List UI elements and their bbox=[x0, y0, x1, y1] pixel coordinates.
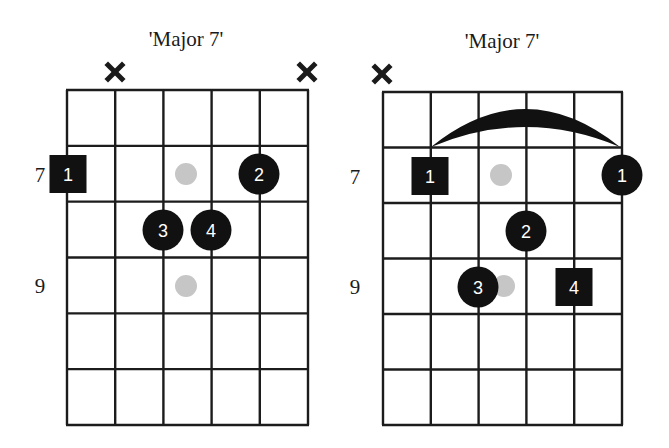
chord-title: 'Major 7' bbox=[149, 27, 224, 51]
finger-marker: 2 bbox=[506, 211, 547, 252]
finger-marker: 3 bbox=[143, 210, 184, 251]
muted-x-icon bbox=[108, 65, 122, 79]
chord-diagram-right: 'Major 7' 7 9 1 1 2 3 4 bbox=[350, 29, 643, 425]
finger-number: 4 bbox=[569, 278, 579, 298]
muted-strings bbox=[375, 67, 389, 81]
finger-marker: 1 bbox=[50, 155, 87, 193]
muted-strings bbox=[108, 65, 314, 79]
finger-marker: 2 bbox=[239, 154, 280, 195]
finger-number: 1 bbox=[617, 166, 627, 186]
root-dot-icon bbox=[175, 275, 197, 297]
finger-number: 1 bbox=[425, 167, 435, 187]
chord-diagrams-canvas: 'Major 7' 7 9 1 2 3 4 'Major 7' 7 9 1 1 … bbox=[0, 0, 669, 448]
muted-x-icon bbox=[300, 65, 314, 79]
fretboard-grid bbox=[382, 92, 623, 425]
root-dot-icon bbox=[490, 164, 512, 186]
finger-number: 3 bbox=[473, 278, 483, 298]
finger-marker: 1 bbox=[412, 157, 449, 195]
finger-marker: 4 bbox=[556, 268, 593, 306]
finger-number: 2 bbox=[254, 165, 264, 185]
chord-title: 'Major 7' bbox=[465, 29, 540, 53]
finger-number: 2 bbox=[521, 222, 531, 242]
finger-number: 3 bbox=[158, 221, 168, 241]
chord-diagram-left: 'Major 7' 7 9 1 2 3 4 bbox=[35, 27, 314, 425]
root-dot-icon bbox=[175, 163, 197, 185]
fretboard-grid bbox=[66, 90, 309, 425]
finger-marker: 4 bbox=[191, 210, 232, 251]
finger-number: 4 bbox=[206, 221, 216, 241]
finger-number: 1 bbox=[63, 165, 73, 185]
finger-marker: 3 bbox=[458, 267, 499, 308]
fret-number-label: 9 bbox=[350, 275, 361, 299]
muted-x-icon bbox=[375, 67, 389, 81]
fret-number-label: 7 bbox=[35, 163, 46, 187]
fret-number-label: 7 bbox=[350, 165, 361, 189]
finger-marker: 1 bbox=[602, 155, 643, 196]
fret-number-label: 9 bbox=[35, 274, 46, 298]
